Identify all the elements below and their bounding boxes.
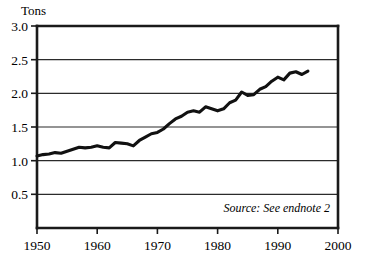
x-tick-label-1990: 1990	[264, 238, 291, 253]
x-tick-label-1960: 1960	[84, 238, 111, 253]
source-annotation: Source: See endnote 2	[223, 201, 330, 215]
y-tick-label-2-5: 2.5	[11, 53, 28, 68]
x-tick-labels: 1950 1960 1970 1980 1990 2000	[24, 238, 352, 253]
y-axis-title: Tons	[21, 3, 46, 18]
data-series-line	[37, 71, 308, 156]
y-tick-label-1-0: 1.0	[11, 154, 28, 169]
gridlines	[37, 60, 338, 195]
x-tick-label-1970: 1970	[144, 238, 171, 253]
y-tick-label-0-5: 0.5	[11, 187, 28, 202]
y-tick-labels: 3.0 2.5 2.0 1.5 1.0 0.5	[11, 19, 28, 202]
x-tick-label-1980: 1980	[204, 238, 231, 253]
y-tick-label-3-0: 3.0	[11, 19, 28, 34]
line-chart: Tons 3.0 2.5 2.0	[0, 0, 367, 264]
x-tick-label-1950: 1950	[24, 238, 51, 253]
chart-figure: Tons 3.0 2.5 2.0	[0, 0, 367, 264]
x-tick-label-2000: 2000	[325, 238, 352, 253]
y-tick-label-1-5: 1.5	[11, 120, 28, 135]
y-tick-label-2-0: 2.0	[11, 86, 28, 101]
